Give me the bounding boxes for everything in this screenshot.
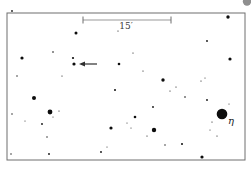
star xyxy=(206,40,208,42)
star xyxy=(181,143,183,145)
star xyxy=(142,70,143,71)
scan-artifacts xyxy=(11,0,251,12)
star xyxy=(118,63,121,66)
star-chart-svg: 15′ η xyxy=(0,0,251,170)
star xyxy=(169,90,170,91)
star xyxy=(72,62,75,65)
star xyxy=(164,144,165,145)
margin-dot xyxy=(11,10,13,12)
eta-star-label: η xyxy=(228,115,234,126)
star xyxy=(152,106,154,108)
star xyxy=(114,89,116,91)
star xyxy=(11,113,12,114)
star xyxy=(228,57,231,60)
star xyxy=(200,155,203,158)
star xyxy=(48,153,50,155)
star xyxy=(127,123,128,124)
star xyxy=(72,57,74,59)
star xyxy=(131,128,132,129)
star xyxy=(229,104,230,105)
star xyxy=(20,56,23,59)
star xyxy=(41,123,43,125)
scale-bar-label: 15′ xyxy=(119,21,133,31)
star xyxy=(200,80,201,81)
star xyxy=(210,130,211,131)
page-corner-blob xyxy=(243,0,251,6)
star xyxy=(58,110,59,111)
star xyxy=(10,153,11,154)
star xyxy=(61,75,62,76)
star xyxy=(25,121,26,122)
star xyxy=(205,78,206,79)
star xyxy=(146,135,147,136)
star xyxy=(134,116,137,119)
star xyxy=(117,30,118,31)
star xyxy=(216,135,217,136)
finder-chart-figure: 15′ η xyxy=(0,0,251,170)
star xyxy=(226,15,229,18)
star xyxy=(48,110,53,115)
star xyxy=(132,52,133,53)
star xyxy=(75,32,78,35)
star xyxy=(16,75,17,76)
star xyxy=(107,147,108,148)
star xyxy=(52,51,54,53)
star xyxy=(152,128,156,132)
star xyxy=(46,136,47,137)
star xyxy=(161,78,164,81)
chart-frame xyxy=(7,13,245,160)
star xyxy=(100,151,102,153)
star xyxy=(53,117,54,118)
star xyxy=(211,121,212,122)
star xyxy=(32,96,36,100)
star xyxy=(109,126,112,129)
star xyxy=(217,109,228,120)
star xyxy=(184,96,186,98)
star xyxy=(175,86,176,87)
star xyxy=(206,99,208,101)
